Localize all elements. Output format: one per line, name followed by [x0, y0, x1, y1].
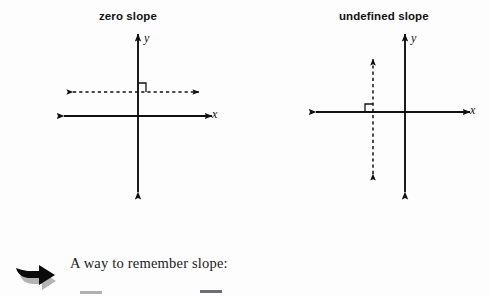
remember-slope-text: A way to remember slope:: [70, 255, 228, 272]
undefined-slope-right-angle-icon: [365, 104, 373, 112]
slope-diagrams-canvas: [0, 0, 490, 297]
zero-slope-axes: [64, 34, 212, 192]
undefined-slope-axes: [316, 34, 470, 192]
zero-slope-right-angle-icon: [138, 83, 146, 92]
cut-off-shape-left: [80, 291, 102, 294]
undefined-slope-y-label: y: [411, 31, 416, 46]
right-arrow-icon: [16, 265, 56, 290]
undefined-slope-title: undefined slope: [339, 10, 429, 22]
undefined-slope-x-label: x: [470, 103, 475, 118]
zero-slope-x-label: x: [212, 107, 217, 122]
cut-off-shape-right: [200, 290, 222, 293]
zero-slope-y-label: y: [144, 31, 149, 46]
